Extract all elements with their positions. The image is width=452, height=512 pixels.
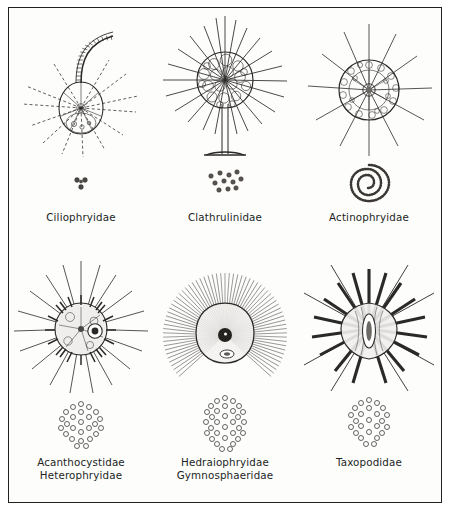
- inset-taxopodidae: [340, 395, 398, 453]
- inset-acanthocystidae-heterophryidae: [51, 395, 111, 453]
- panel-label-actinophryidae: Actinophryidae: [329, 211, 409, 224]
- panel-label-ciliophryidae: Ciliophryidae: [46, 211, 115, 224]
- panel-ciliophryidae: Ciliophryidae: [9, 8, 153, 255]
- panel-label-clathrulinidae: Clathrulinidae: [188, 211, 262, 224]
- panel-label-hedraiophryidae-gymnosphaeridae: Hedraiophryidae Gymnosphaeridae: [177, 456, 274, 481]
- inset-actinophryidae: [343, 158, 395, 208]
- panel-taxopodidae: Taxopodidae: [297, 255, 441, 502]
- inset-hedraiophryidae-gymnosphaeridae: [196, 395, 254, 453]
- organism-ciliophryidae: [10, 12, 152, 164]
- organism-clathrulinidae: [154, 12, 296, 164]
- organism-actinophryidae: [298, 12, 440, 164]
- organism-acanthocystidae-heterophryidae: [10, 259, 152, 399]
- organism-hedraiophryidae-gymnosphaeridae: [154, 259, 296, 399]
- panel-hedraiophryidae-gymnosphaeridae: Hedraiophryidae Gymnosphaeridae: [153, 255, 297, 502]
- figure-plate: Ciliophryidae: [8, 7, 442, 503]
- panel-label-taxopodidae: Taxopodidae: [336, 456, 402, 469]
- panel-clathrulinidae: Clathrulinidae: [153, 8, 297, 255]
- inset-ciliophryidae: [61, 158, 101, 208]
- panel-acanthocystidae-heterophryidae: Acanthocystidae Heterophryidae: [9, 255, 153, 502]
- panel-label-acanthocystidae-heterophryidae: Acanthocystidae Heterophryidae: [37, 456, 125, 481]
- organism-taxopodidae: [298, 259, 440, 399]
- panel-grid: Ciliophryidae: [9, 8, 441, 502]
- inset-clathrulinidae: [197, 158, 253, 208]
- panel-actinophryidae: Actinophryidae: [297, 8, 441, 255]
